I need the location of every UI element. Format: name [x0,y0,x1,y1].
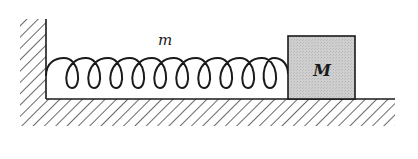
spring-mass-label: m [158,31,172,49]
wall-hatch [20,19,46,99]
spring [46,58,288,88]
spring-mass-diagram: m M [0,0,418,159]
block-mass-label: M [312,61,332,80]
floor-hatch [20,99,395,126]
